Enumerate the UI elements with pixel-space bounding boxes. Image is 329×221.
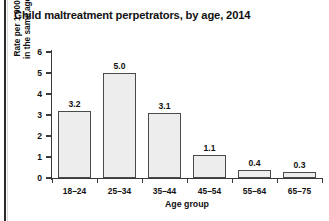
x-tick-3 (187, 178, 188, 183)
x-tick-4 (232, 178, 233, 183)
chart-figure: Child maltreatment perpetrators, by age,… (0, 0, 329, 221)
x-tick-label-35–44: 35–44 (142, 186, 187, 196)
bar-35–44 (148, 113, 181, 178)
x-tick-6 (322, 178, 323, 183)
x-axis-title: Age group (52, 199, 322, 209)
y-tick-label-3: 3 (12, 111, 42, 120)
y-tick-label-1: 1 (12, 153, 42, 162)
x-tick-label-25–34: 25–34 (97, 186, 142, 196)
y-tick-4 (46, 93, 51, 94)
bar-value-label-25–34: 5.0 (100, 61, 140, 71)
y-tick-2 (46, 135, 51, 136)
page-left-border-shadow (7, 0, 8, 221)
y-tick-1 (46, 156, 51, 157)
bar-value-label-18–24: 3.2 (55, 99, 95, 109)
x-tick-label-55–64: 55–64 (232, 186, 277, 196)
bar-value-label-65–75: 0.3 (280, 160, 320, 170)
y-tick-5 (46, 72, 51, 73)
y-tick-label-0: 0 (12, 174, 42, 183)
x-tick-0 (52, 178, 53, 183)
bar-value-label-35–44: 3.1 (145, 101, 185, 111)
bar-25–34 (103, 73, 136, 178)
bar-18–24 (58, 111, 91, 178)
y-tick-label-5: 5 (12, 69, 42, 78)
bar-65–75 (283, 172, 316, 178)
bar-value-label-55–64: 0.4 (235, 158, 275, 168)
x-tick-label-45–54: 45–54 (187, 186, 232, 196)
x-tick-2 (142, 178, 143, 183)
y-tick-label-6: 6 (12, 48, 42, 57)
x-tick-1 (97, 178, 98, 183)
bar-45–54 (193, 155, 226, 178)
y-axis-title: Rate per 1,000 adults in the same age gr… (10, 0, 36, 78)
y-tick-0 (46, 177, 51, 178)
bar-55–64 (238, 170, 271, 178)
y-tick-label-2: 2 (12, 132, 42, 141)
bar-value-label-45–54: 1.1 (190, 143, 230, 153)
y-tick-6 (46, 51, 51, 52)
x-tick-5 (277, 178, 278, 183)
y-tick-label-4: 4 (12, 90, 42, 99)
x-tick-label-18–24: 18–24 (52, 186, 97, 196)
x-tick-label-65–75: 65–75 (277, 186, 322, 196)
page-left-border (4, 0, 6, 221)
chart-title: Child maltreatment perpetrators, by age,… (14, 9, 250, 21)
y-tick-3 (46, 114, 51, 115)
plot-area: 3.25.03.11.10.40.3 (52, 52, 322, 178)
